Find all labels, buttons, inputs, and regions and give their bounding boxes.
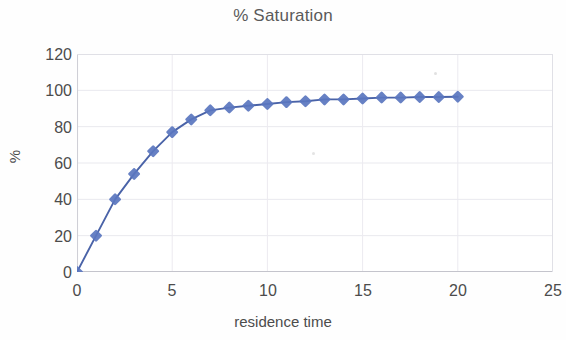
chart-title: % Saturation <box>0 6 566 26</box>
plot-area <box>77 54 553 272</box>
x-tick-label: 0 <box>55 283 99 299</box>
x-tick-label: 10 <box>246 283 290 299</box>
chart-container: % Saturation % 120 100 80 60 40 20 0 0 5… <box>0 0 566 340</box>
y-tick-label: 20 <box>22 229 72 245</box>
scan-speck <box>312 152 315 155</box>
x-axis-title: residence time <box>0 313 566 330</box>
y-tick-label: 120 <box>22 47 72 63</box>
x-tick-label: 5 <box>150 283 194 299</box>
y-tick-label: 80 <box>22 120 72 136</box>
chart-plot-svg <box>77 54 553 272</box>
y-tick-label: 40 <box>22 192 72 208</box>
x-tick-label: 25 <box>531 283 566 299</box>
x-tick-label: 15 <box>341 283 385 299</box>
series-markers <box>77 92 462 272</box>
y-tick-label: 0 <box>22 265 72 281</box>
x-tick-label: 20 <box>436 283 480 299</box>
gridlines <box>77 54 553 272</box>
y-tick-label: 60 <box>22 156 72 172</box>
y-tick-label: 100 <box>22 83 72 99</box>
scan-speck <box>434 72 437 75</box>
